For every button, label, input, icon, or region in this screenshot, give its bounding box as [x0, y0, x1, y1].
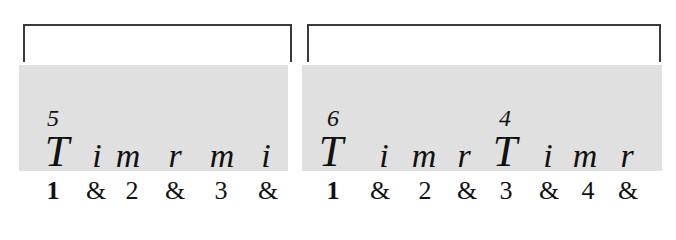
syllable: T: [45, 130, 69, 174]
syllable: m: [116, 139, 141, 173]
count-label: 3: [500, 178, 513, 204]
syllable: m: [573, 139, 598, 173]
count-label: 2: [419, 178, 432, 204]
syllable: r: [457, 139, 470, 173]
count-label: &: [86, 178, 106, 204]
syllable: T: [493, 130, 517, 174]
count-label: 2: [126, 178, 139, 204]
syllable: r: [168, 139, 181, 173]
syllable: i: [92, 139, 101, 173]
measure-panel: [302, 65, 662, 171]
syllable: m: [210, 139, 235, 173]
count-label: &: [618, 178, 638, 204]
syllable: i: [543, 139, 552, 173]
count-label: &: [539, 178, 559, 204]
count-label: &: [457, 178, 477, 204]
count-label: &: [370, 178, 390, 204]
syllable: i: [379, 139, 388, 173]
syllable: r: [620, 139, 633, 173]
count-label: 1: [47, 178, 60, 204]
measure-bracket: [23, 24, 292, 62]
count-label: 4: [582, 178, 595, 204]
count-label: &: [258, 178, 278, 204]
count-label: &: [165, 178, 185, 204]
syllable: i: [261, 139, 270, 173]
syllable: m: [412, 139, 437, 173]
measure-bracket: [307, 24, 661, 62]
count-label: 3: [215, 178, 228, 204]
count-label: 1: [327, 178, 340, 204]
syllable: T: [319, 130, 343, 174]
